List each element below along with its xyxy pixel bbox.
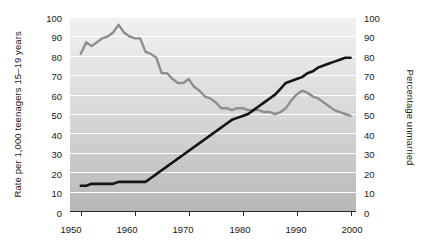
teen-birthrate-chart: Rate per 1,000 teenagers 15–19 years Per…	[0, 0, 426, 248]
plot-area	[0, 0, 426, 248]
